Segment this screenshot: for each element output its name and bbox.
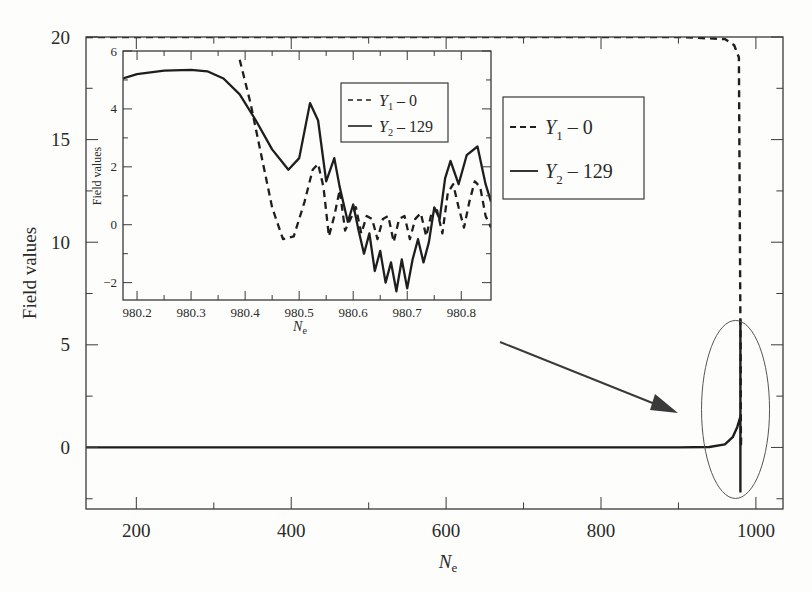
inset-y-tick-label: 4: [111, 101, 118, 116]
inset-x-tick-label: 980.5: [285, 305, 314, 320]
inset-x-tick-label: 980.6: [339, 305, 369, 320]
main-x-axis-title: Ne: [438, 551, 458, 575]
main-x-axis-sub: e: [451, 560, 457, 575]
main-y-tick-label: 0: [61, 437, 71, 458]
inset-x-axis-title: Ne: [292, 319, 307, 336]
inset-x-tick-label: 980.7: [393, 305, 423, 320]
inset-y-tick-label: 2: [111, 159, 118, 174]
main-y-tick-label: 20: [51, 27, 70, 48]
zoom-region-ellipse: [702, 320, 770, 498]
main-x-tick-label: 400: [277, 520, 306, 541]
inset-x-tick-label: 980.2: [122, 305, 151, 320]
inset-x-tick-label: 980.4: [231, 305, 261, 320]
inset-x-tick-label: 980.8: [447, 305, 476, 320]
inset-x-axis-var: N: [292, 319, 303, 334]
main-x-tick-label: 1000: [737, 520, 775, 541]
inset-y-tick-label: 0: [111, 217, 118, 232]
main-y-tick-label: 5: [61, 334, 71, 355]
main-y-axis-title: Field values: [19, 227, 40, 319]
main-y-tick-label: 15: [51, 129, 70, 150]
inset-x-axis-sub: e: [302, 325, 307, 336]
inset-x-tick-label: 980.3: [176, 305, 205, 320]
main-y-tick-label: 10: [51, 232, 70, 253]
inset-plot: 980.2980.3980.4980.5980.6980.7980.8−2024…: [103, 44, 491, 320]
main-x-tick-label: 600: [432, 520, 461, 541]
inset-y-tick-label: 6: [111, 44, 118, 59]
annotations: [500, 320, 770, 498]
inset-y-tick-label: −2: [103, 275, 117, 290]
main-x-tick-label: 800: [587, 520, 616, 541]
pointer-arrow-shaft: [500, 342, 660, 406]
inset-y-axis-title: Field values: [90, 147, 104, 206]
pointer-arrow-head-icon: [650, 394, 678, 413]
main-legend: [503, 97, 644, 199]
main-x-tick-label: 200: [122, 520, 151, 541]
main-series-y2: [86, 320, 740, 492]
chart-figure: 200400600800100005101520Y1 – 0Y2 – 129 9…: [0, 0, 812, 592]
